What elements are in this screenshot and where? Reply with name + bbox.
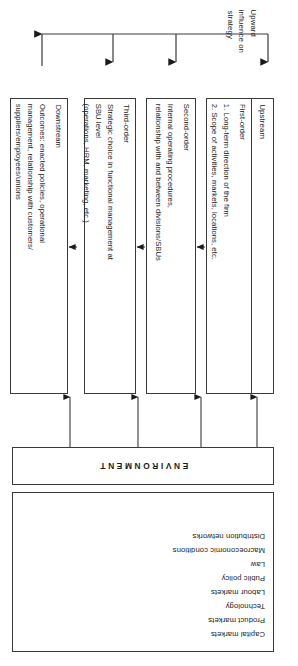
environment-band: ENVIRONMENT	[12, 447, 274, 485]
environment-factor: Technology	[19, 602, 265, 612]
sequence-arrows	[0, 98, 298, 394]
environment-factor: Capital markets	[19, 630, 265, 640]
environment-factor: Labour markets	[19, 588, 265, 598]
upward-influence-group: Upward influence on strategy	[0, 8, 298, 88]
upward-influence-line-3: strategy	[225, 10, 236, 39]
upward-influence-label: Upward influence on strategy	[198, 10, 258, 86]
environment-band-label: ENVIRONMENT	[98, 461, 188, 471]
environment-feed-arrows	[0, 391, 298, 447]
environment-factor: Macroeconomic conditions	[19, 546, 265, 556]
environment-factors-panel: Capital markets Product markets Technolo…	[12, 492, 274, 652]
environment-factor: Public policy	[19, 574, 265, 584]
environment-factor-list: Capital markets Product markets Technolo…	[19, 497, 265, 645]
environment-factor: Product markets	[19, 616, 265, 626]
environment-factor: Distribution networks	[19, 532, 265, 542]
environment-factor: Law	[19, 560, 265, 570]
upward-influence-line-1: Upward	[248, 10, 259, 37]
strategy-hierarchy-diagram: Capital markets Product markets Technolo…	[0, 0, 298, 666]
upward-influence-line-2: influence on	[236, 10, 247, 53]
